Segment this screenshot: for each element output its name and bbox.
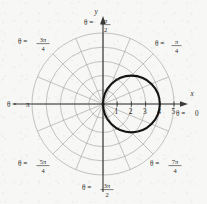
polar-plot-figure: 1 2 3 4 5 x y θ = 0 θ = π 4: [0, 0, 207, 204]
theta-pi-4-prefix: θ =: [155, 40, 164, 48]
radial-tick-2: 2: [129, 107, 133, 116]
radial-tick-1: 1: [115, 107, 119, 116]
polar-plot-svg: 1 2 3 4 5 x y θ = 0 θ = π 4: [0, 0, 207, 204]
pole-origin-dot: [102, 103, 105, 106]
theta-pi-2-prefix: θ =: [84, 19, 93, 27]
radial-tick-3: 3: [143, 107, 147, 116]
theta-5pi-4-numerator: 5π: [40, 158, 47, 165]
theta-3pi-2-prefix: θ =: [82, 184, 91, 192]
theta-0-prefix: θ =: [176, 110, 185, 118]
theta-pi-value: π: [26, 101, 30, 109]
theta-3pi-2-denominator: 2: [105, 191, 108, 198]
theta-7pi-4-numerator: 7π: [172, 158, 179, 165]
theta-3pi-4-numerator: 3π: [40, 36, 47, 43]
theta-5pi-4-prefix: θ =: [18, 160, 27, 168]
theta-3pi-2-numerator: 3π: [104, 182, 111, 189]
theta-pi-2-denominator: 2: [104, 26, 107, 33]
theta-0-value: 0: [195, 110, 199, 118]
theta-3pi-4-prefix: θ =: [18, 38, 27, 46]
radial-tick-5: 5: [172, 107, 176, 116]
theta-pi-prefix: θ =: [7, 101, 16, 109]
theta-7pi-4-prefix: θ =: [150, 160, 159, 168]
